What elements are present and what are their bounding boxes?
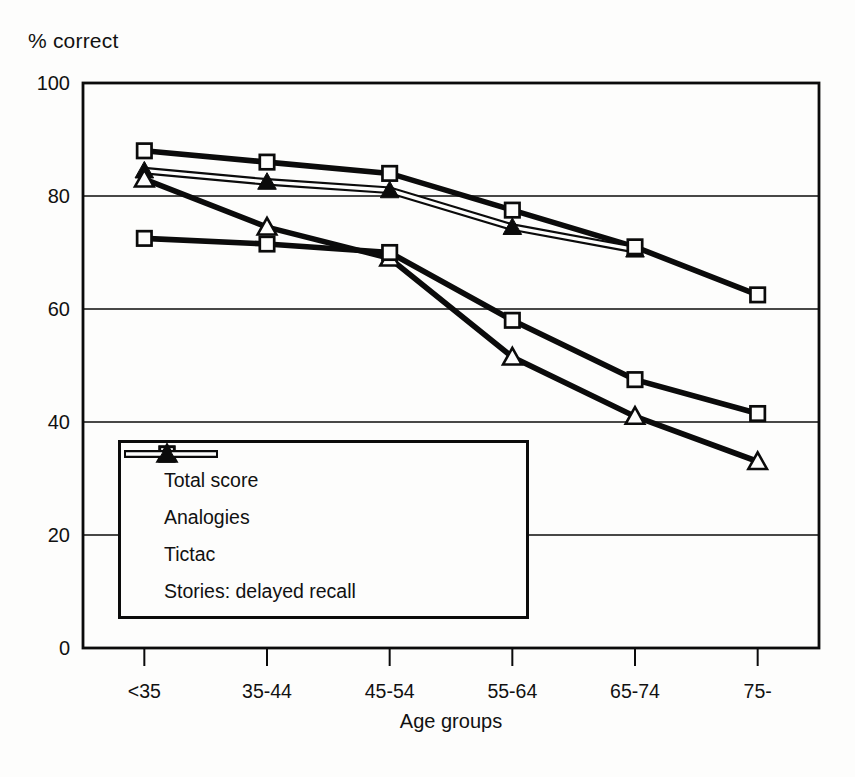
legend-label-tictac: Tictac xyxy=(164,544,215,565)
svg-text:100: 100 xyxy=(37,72,70,94)
legend-item-stories-delayed-recall: Stories: delayed recall xyxy=(121,581,526,602)
line-chart-canvas: <3535-4445-5455-6465-7475-020406080100 xyxy=(0,0,855,777)
svg-text:60: 60 xyxy=(48,298,70,320)
chart-legend: Total score Analogies Tictac Stories: de… xyxy=(118,440,529,619)
svg-text:45-54: 45-54 xyxy=(365,680,415,702)
svg-text:0: 0 xyxy=(59,637,70,659)
x-axis-title: Age groups xyxy=(83,710,819,733)
legend-label-total-score: Total score xyxy=(164,470,258,491)
legend-item-total-score: Total score xyxy=(121,470,526,491)
y-axis-title: % correct xyxy=(28,29,119,53)
svg-text:35-44: 35-44 xyxy=(242,680,292,702)
legend-label-analogies: Analogies xyxy=(164,507,250,528)
svg-text:80: 80 xyxy=(48,185,70,207)
filled-triangle-double-line-swatch-icon xyxy=(121,443,221,465)
svg-text:75-: 75- xyxy=(744,680,772,702)
svg-text:55-64: 55-64 xyxy=(487,680,537,702)
chart-figure: <3535-4445-5455-6465-7475-020406080100 %… xyxy=(0,0,855,777)
legend-item-analogies: Analogies xyxy=(121,507,526,528)
svg-text:65-74: 65-74 xyxy=(610,680,660,702)
legend-item-tictac: Tictac xyxy=(121,544,526,565)
svg-text:20: 20 xyxy=(48,524,70,546)
svg-text:40: 40 xyxy=(48,411,70,433)
svg-text:<35: <35 xyxy=(128,680,161,702)
legend-label-stories-delayed-recall: Stories: delayed recall xyxy=(164,581,356,602)
